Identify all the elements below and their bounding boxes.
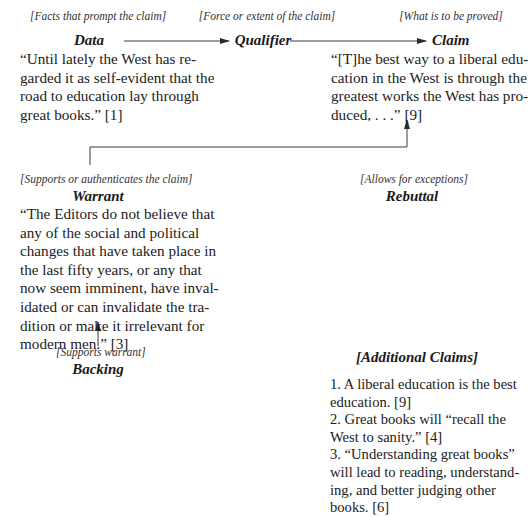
rebuttal-sublabel: [Allows for exceptions] xyxy=(360,173,464,185)
warrant-quote: “The Editors do not believe that any of … xyxy=(20,205,219,354)
warrant-quote-line: idated or can invalidate the tra- xyxy=(20,298,219,317)
additional-claim-line: 1. A liberal education is the best xyxy=(330,376,519,394)
data-quote-line: garded it as self-evident that the xyxy=(20,69,214,88)
warrant-quote-line: “The Editors do not believe that xyxy=(20,205,219,224)
additional-claim-line: will lead to reading, understand- xyxy=(330,464,519,482)
warrant-quote-line: dition or make it irrelevant for xyxy=(20,317,219,336)
data-heading: Data xyxy=(60,32,118,49)
data-quote-line: great books.” [1] xyxy=(20,106,214,125)
claim-heading: Claim xyxy=(428,32,494,49)
additional-claim-line: books. [6] xyxy=(330,499,519,517)
claim-quote-line: duced, . . .” [9] xyxy=(331,106,528,125)
backing-sublabel: [Supports warrant] xyxy=(56,346,140,358)
warrant-sublabel: [Supports or authenticates the claim] xyxy=(20,173,176,185)
additional-claim-line: West to sanity.” [4] xyxy=(330,429,519,447)
claim-sublabel: [What is to be proved] xyxy=(396,10,506,22)
warrant-quote-line: the last fifty years, or any that xyxy=(20,261,219,280)
backing-heading: Backing xyxy=(58,361,138,378)
qualifier-sublabel: [Force or extent of the claim] xyxy=(196,10,338,22)
additional-claim-line: 2. Great books will “recall the xyxy=(330,411,519,429)
additional-claims-list: 1. A liberal education is the best educa… xyxy=(330,376,519,517)
warrant-heading: Warrant xyxy=(58,188,138,205)
data-quote-line: “Until lately the West has re- xyxy=(20,50,214,69)
warrant-quote-line: now seem imminent, have inval- xyxy=(20,279,219,298)
additional-claim-line: ing, and better judging other xyxy=(330,482,519,500)
qualifier-heading: Qualifier xyxy=(232,32,294,49)
warrant-quote-line: changes that have taken place in xyxy=(20,242,219,261)
claim-quote: “[T]he best way to a liberal edu- cation… xyxy=(331,50,528,124)
claim-quote-line: “[T]he best way to a liberal edu- xyxy=(331,50,528,69)
claim-quote-line: greatest works the West has pro- xyxy=(331,87,528,106)
additional-claim-line: 3. “Understanding great books” xyxy=(330,446,519,464)
claim-quote-line: cation in the West is through the xyxy=(331,69,528,88)
additional-claim-line: education. [9] xyxy=(330,394,519,412)
additional-claims-heading: [Additional Claims] xyxy=(356,349,476,366)
warrant-quote-line: any of the social and political xyxy=(20,224,219,243)
data-sublabel: [Facts that prompt the claim] xyxy=(30,10,156,22)
arrow-warrant-to-claim xyxy=(90,120,407,165)
rebuttal-heading: Rebuttal xyxy=(372,188,452,205)
data-quote: “Until lately the West has re- garded it… xyxy=(20,50,214,124)
data-quote-line: road to education lay through xyxy=(20,87,214,106)
